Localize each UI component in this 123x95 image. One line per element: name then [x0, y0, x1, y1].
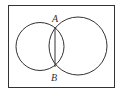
venn-diagram: A B	[0, 0, 123, 95]
left-circle	[16, 23, 64, 71]
right-circle	[49, 17, 107, 75]
point-label-b: B	[51, 72, 57, 83]
frame-rectangle	[9, 6, 115, 88]
point-label-a: A	[51, 13, 59, 24]
